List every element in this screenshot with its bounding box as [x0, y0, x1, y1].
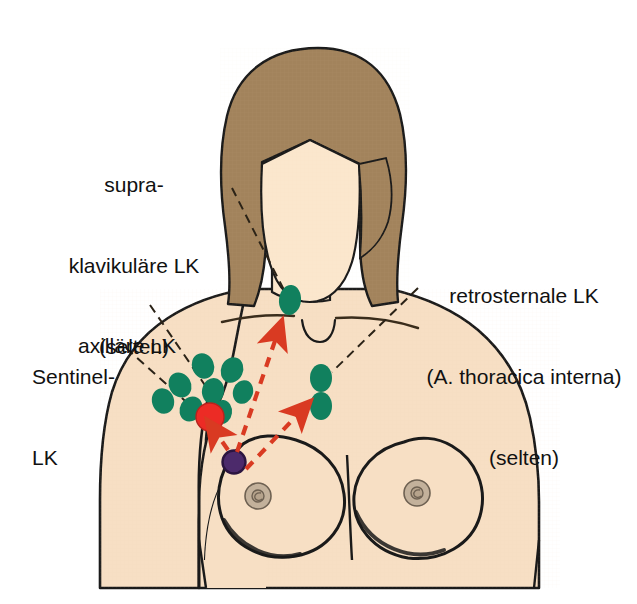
label-sentinel-line1: Sentinel- [32, 363, 142, 390]
retrosternal-lymph-node [310, 364, 332, 392]
retrosternal-lymph-node [310, 392, 332, 420]
label-retrosternal-lymph-nodes: retrosternale LK (A. thoracica interna) … [414, 228, 634, 525]
label-supraclavicular-line1: supra- [36, 171, 232, 198]
tumor-marker [223, 451, 246, 474]
label-retrosternal-line3: (selten) [414, 444, 634, 471]
label-retrosternal-line2: (A. thoracica interna) [414, 363, 634, 390]
label-retrosternal-line1: retrosternale LK [414, 282, 634, 309]
label-sentinel-line2: LK [32, 444, 142, 471]
paper-texture-head [220, 48, 410, 310]
label-supraclavicular-line2: klavikuläre LK [36, 252, 232, 279]
left-nipple [245, 483, 271, 509]
anatomical-diagram: supra- klavikuläre LK (selten) retroster… [0, 0, 637, 604]
label-sentinel-lymph-node: Sentinel- LK [32, 309, 142, 525]
